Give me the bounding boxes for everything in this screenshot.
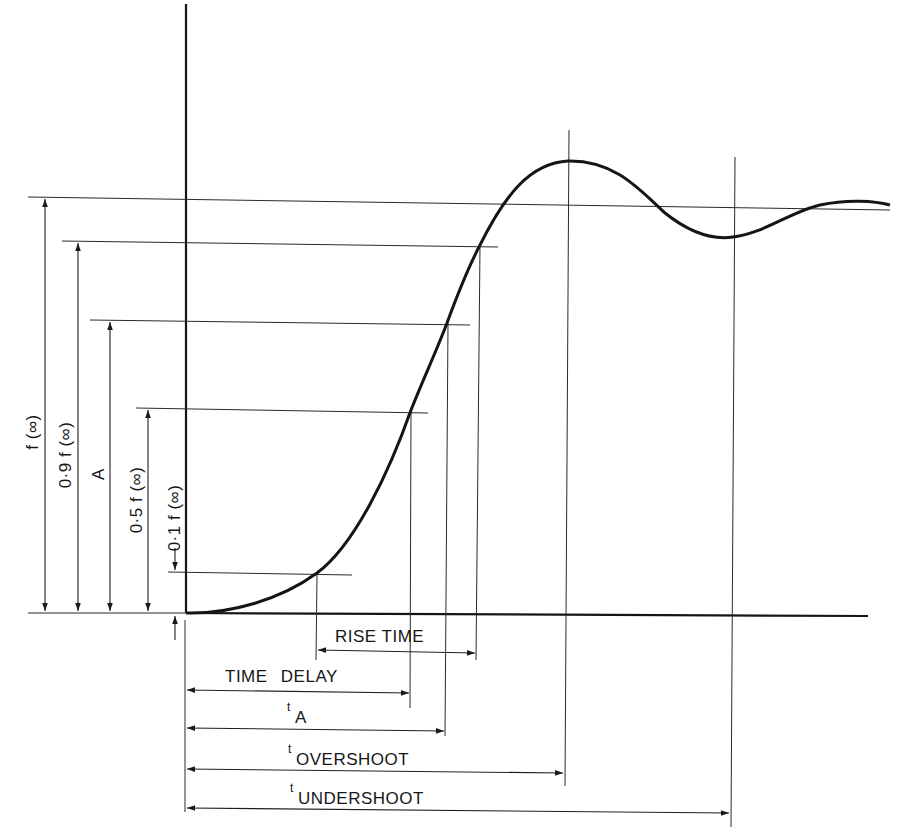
f-inf-label: f (∞) <box>23 414 42 449</box>
t-overshoot-projection <box>565 130 569 786</box>
t-undershoot-t: t <box>290 781 294 795</box>
t-A-subscript: A <box>295 708 307 727</box>
t-overshoot-t: t <box>288 742 292 756</box>
0.5-f-inf-label: 0·5 f (∞) <box>127 467 146 534</box>
step-response-diagram: f (∞) 0·9 f (∞) A 0·5 f (∞) 0·1 f (∞) RI… <box>0 0 909 840</box>
t-0.1-projection <box>316 575 317 660</box>
t-undershoot-arrow <box>187 808 729 813</box>
time-delay-arrow <box>187 690 409 693</box>
t-A-projection <box>445 323 448 736</box>
t-0.5-projection <box>410 410 411 708</box>
time-axis <box>186 613 868 616</box>
time-delay-label: TIME DELAY <box>225 667 338 686</box>
t-undershoot-projection <box>731 157 735 827</box>
rise-time-label: RISE TIME <box>335 627 424 646</box>
t-A-t: t <box>287 700 291 714</box>
t-0.9-projection <box>476 246 480 660</box>
0.1-f-inf-label: 0·1 f (∞) <box>165 485 184 552</box>
0.9-reference-line <box>62 241 498 247</box>
t-overshoot-arrow <box>187 769 563 773</box>
A-reference-line <box>90 320 470 325</box>
t-overshoot-subscript: OVERSHOOT <box>296 750 409 769</box>
0.1-reference-line <box>168 572 352 575</box>
t-A-arrow <box>187 728 444 731</box>
step-response-curve <box>186 161 890 613</box>
f-inf-reference-line <box>28 197 890 210</box>
rise-time-arrow <box>318 650 475 653</box>
0.9-f-inf-label: 0·9 f (∞) <box>56 422 75 489</box>
A-label: A <box>89 468 108 480</box>
t-undershoot-subscript: UNDERSHOOT <box>298 789 424 808</box>
0.5-reference-line <box>136 408 428 413</box>
